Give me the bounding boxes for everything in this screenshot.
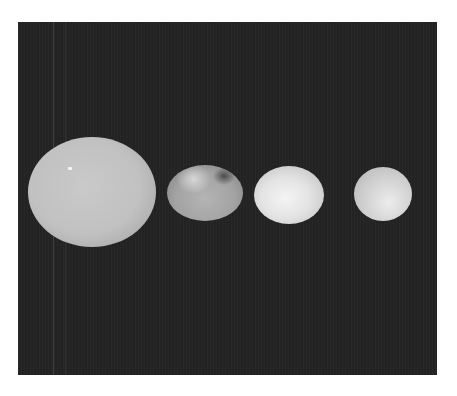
asteroid-3 <box>254 166 324 224</box>
asteroid-1 <box>28 137 156 247</box>
asteroid-4 <box>354 167 412 221</box>
bright-spot <box>68 167 72 170</box>
photo-panel <box>18 22 437 375</box>
asteroid-2 <box>167 165 243 221</box>
